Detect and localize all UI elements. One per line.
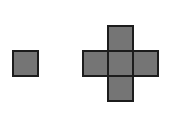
- figure-canvas: [0, 0, 182, 135]
- plus-cell: [107, 50, 134, 77]
- single-square-shape: [12, 50, 39, 77]
- plus-cell: [107, 25, 134, 52]
- plus-cell: [132, 50, 159, 77]
- plus-cell: [82, 50, 109, 77]
- plus-cross-shape: [82, 25, 159, 102]
- plus-cell: [107, 75, 134, 102]
